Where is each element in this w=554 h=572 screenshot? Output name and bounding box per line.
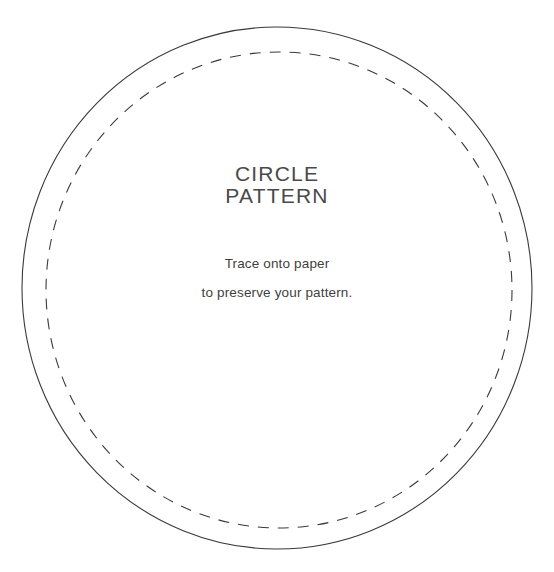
- inner-circle-dashed-stitch-line: [46, 52, 512, 528]
- pattern-sheet: CIRCLE PATTERN Trace onto paper to prese…: [0, 0, 554, 572]
- circle-pattern-drawing: [0, 0, 554, 572]
- outer-circle-cut-line: [22, 27, 532, 549]
